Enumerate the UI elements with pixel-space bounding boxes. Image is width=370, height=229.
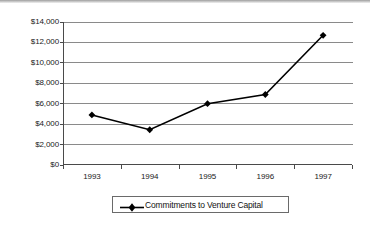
y-axis-labels: $0$2,000$4,000$6,000$8,000$10,000$12,000… [0, 22, 59, 165]
y-axis-tick-label: $12,000 [1, 38, 59, 46]
x-axis-tick-label: 1996 [245, 172, 285, 181]
y-axis-tick-label: $4,000 [1, 120, 59, 128]
x-axis-tick-label: 1993 [72, 172, 112, 181]
y-axis-tick-label: $0 [1, 161, 59, 169]
line-chart-figure: $0$2,000$4,000$6,000$8,000$10,000$12,000… [0, 0, 370, 229]
data-point-marker [89, 112, 96, 119]
chart-legend: Commitments to Venture Capital [112, 196, 289, 213]
y-axis-tick-label: $2,000 [1, 141, 59, 149]
data-point-marker [204, 100, 211, 107]
y-axis-tick-label: $14,000 [1, 18, 59, 26]
x-axis-tick [121, 165, 122, 169]
y-axis-tick-label: $8,000 [1, 79, 59, 87]
series-line [92, 35, 323, 129]
diamond-marker-icon [119, 199, 145, 210]
x-axis-tick [294, 165, 295, 169]
x-axis-labels: 19931994199519961997 [63, 172, 352, 184]
y-axis-tick-label: $6,000 [1, 100, 59, 108]
x-axis-tick-label: 1995 [188, 172, 228, 181]
x-axis-tick [63, 165, 64, 169]
data-point-marker [146, 126, 153, 133]
x-axis-tick [179, 165, 180, 169]
x-axis-tick [352, 165, 353, 169]
x-axis-tick-label: 1997 [303, 172, 343, 181]
series-plot [63, 22, 352, 165]
x-axis-tick-label: 1994 [130, 172, 170, 181]
x-axis-tick [236, 165, 237, 169]
x-axis-ticks [63, 165, 352, 170]
legend-label: Commitments to Venture Capital [145, 200, 263, 210]
y-axis-tick-label: $10,000 [1, 59, 59, 67]
